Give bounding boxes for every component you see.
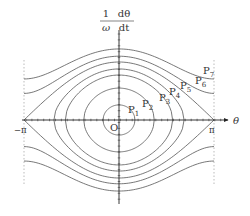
- axis-ticks: [26, 34, 221, 199]
- minus-pi-label: −π: [14, 125, 27, 135]
- y-label-numerator-right: dθ: [118, 8, 130, 19]
- y-label-denominator-right: dt: [119, 22, 129, 33]
- point-label-p5: P5: [180, 80, 191, 94]
- phase-portrait-diagram: 1 dθ ω dt θ O −π π P1P2P3P4P5P6P7: [0, 0, 250, 216]
- x-axis-label: θ: [233, 115, 239, 126]
- pi-label: π: [209, 125, 215, 135]
- point-label-p2: P2: [142, 98, 153, 112]
- y-label-numerator-left: 1: [103, 8, 109, 19]
- point-label-p1: P1: [128, 104, 139, 118]
- origin-label: O: [110, 122, 118, 133]
- point-label-p6: P6: [195, 75, 207, 89]
- y-axis-label: 1 dθ ω dt: [100, 8, 134, 33]
- point-label-p7: P7: [203, 65, 214, 79]
- y-label-denominator-left: ω: [102, 22, 110, 33]
